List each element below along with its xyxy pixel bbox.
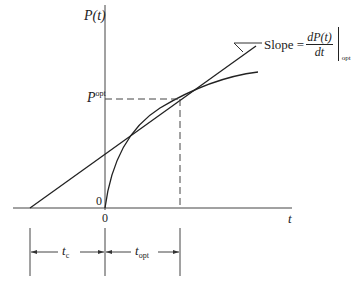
slope-numerator: dP(t): [306, 31, 333, 45]
y-label-arg: (t): [93, 8, 106, 23]
p-opt-label: Popt: [87, 91, 106, 105]
p-opt-superscript: opt: [96, 89, 106, 98]
arrowhead-icon: [106, 250, 112, 254]
arrowhead-icon: [31, 250, 37, 254]
interval-label-topt: topt: [135, 244, 149, 257]
x-origin-label: 0: [102, 212, 108, 224]
slope-pointer: [234, 43, 262, 52]
slope-denominator: dt: [306, 45, 333, 58]
arrowhead-icon: [98, 250, 104, 254]
tc-subscript: c: [66, 251, 70, 260]
arrowhead-icon: [173, 250, 179, 254]
x-axis-label: t: [288, 212, 292, 225]
slope-eval-subscript: opt: [342, 55, 351, 62]
topt-subscript: opt: [139, 251, 149, 260]
tangent-line: [30, 46, 256, 208]
slope-annotation: Slope = dP(t) dt opt: [264, 27, 339, 61]
y-label-main: P: [84, 8, 93, 23]
interval-label-tc: tc: [62, 244, 69, 257]
slope-fraction: dP(t) dt: [306, 31, 333, 58]
p-curve: [105, 72, 258, 208]
slope-prefix: Slope =: [264, 38, 304, 51]
y-axis-label: P(t): [84, 9, 106, 23]
y-origin-label: 0: [96, 195, 102, 207]
p-opt-main: P: [87, 90, 96, 105]
evaluation-bar: opt: [338, 27, 339, 61]
